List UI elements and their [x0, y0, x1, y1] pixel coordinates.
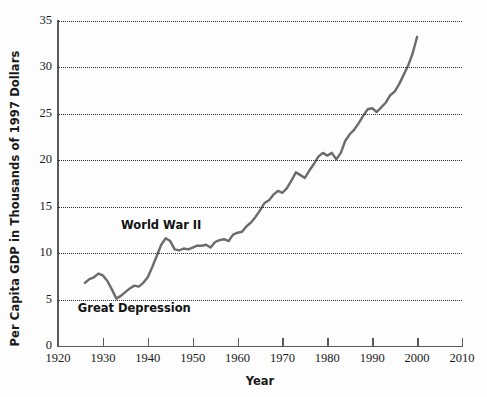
annotation-world-war-ii: World War II [121, 218, 201, 232]
chart-container: Per Capita GDP in Thousands of 1997 Doll… [0, 0, 487, 397]
annotation-great-depression: Great Depression [78, 301, 191, 315]
chart-annotations: World War IIGreat Depression [0, 0, 487, 397]
x-axis-title: Year [58, 374, 462, 388]
